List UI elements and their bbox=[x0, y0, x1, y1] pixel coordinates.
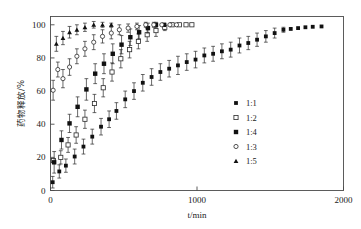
data-point-1-3 bbox=[144, 23, 148, 27]
data-point-1-4 bbox=[84, 87, 88, 91]
data-point-1-5 bbox=[61, 36, 66, 40]
data-point-1-3 bbox=[51, 88, 55, 92]
data-point-1-1 bbox=[176, 63, 180, 67]
x-tick-label: 1000 bbox=[188, 195, 207, 205]
data-point-1-3 bbox=[117, 28, 121, 32]
data-point-1-3 bbox=[160, 23, 164, 27]
chart-canvas: 020406080100010002000t/min药物释放/%1:11:21:… bbox=[0, 0, 361, 229]
data-point-1-5 bbox=[67, 30, 72, 34]
data-point-1-1 bbox=[51, 180, 55, 184]
y-tick-label: 80 bbox=[37, 53, 47, 63]
data-point-1-1 bbox=[311, 25, 315, 29]
data-point-1-3 bbox=[61, 77, 65, 81]
data-point-1-1 bbox=[246, 41, 250, 45]
x-tick-label: 2000 bbox=[335, 195, 354, 205]
data-point-1-3 bbox=[67, 65, 71, 69]
legend-label-1-5: 1:5 bbox=[246, 156, 257, 166]
data-point-1-1 bbox=[255, 38, 259, 42]
data-point-1-3 bbox=[56, 67, 60, 71]
legend-marker-1-2 bbox=[234, 115, 238, 119]
legend-marker-1-4 bbox=[234, 130, 238, 134]
data-point-1-2 bbox=[136, 39, 140, 43]
y-tick-label: 20 bbox=[37, 152, 47, 162]
data-point-1-4 bbox=[102, 62, 106, 66]
data-point-1-1 bbox=[64, 164, 68, 168]
x-tick-label: 0 bbox=[48, 195, 53, 205]
data-point-1-2 bbox=[110, 70, 114, 74]
data-point-1-1 bbox=[123, 97, 127, 101]
data-point-1-1 bbox=[194, 58, 198, 62]
data-point-1-1 bbox=[185, 60, 189, 64]
legend-marker-1-1 bbox=[234, 101, 238, 105]
data-point-1-1 bbox=[132, 89, 136, 93]
data-point-1-2 bbox=[184, 23, 188, 27]
data-point-1-1 bbox=[90, 135, 94, 139]
data-point-1-2 bbox=[66, 143, 70, 147]
data-point-1-3 bbox=[75, 54, 79, 58]
data-point-1-2 bbox=[119, 57, 123, 61]
data-point-1-1 bbox=[320, 25, 324, 29]
data-point-1-1 bbox=[238, 44, 242, 48]
data-point-1-4 bbox=[52, 160, 56, 164]
data-point-1-1 bbox=[73, 155, 77, 159]
data-point-1-1 bbox=[289, 27, 293, 31]
data-point-1-2 bbox=[83, 117, 87, 121]
data-point-1-5 bbox=[91, 22, 96, 26]
drug-release-chart: 020406080100010002000t/min药物释放/%1:11:21:… bbox=[0, 0, 361, 229]
data-point-1-4 bbox=[67, 121, 71, 125]
data-point-1-4 bbox=[119, 42, 123, 46]
legend-marker-1-3 bbox=[234, 144, 238, 148]
data-point-1-3 bbox=[152, 23, 156, 27]
data-point-1-1 bbox=[273, 31, 277, 35]
data-point-1-3 bbox=[168, 23, 172, 27]
data-point-1-2 bbox=[59, 155, 63, 159]
data-point-1-4 bbox=[59, 138, 63, 142]
data-point-1-1 bbox=[220, 49, 224, 53]
data-point-1-1 bbox=[150, 75, 154, 79]
data-point-1-1 bbox=[264, 34, 268, 38]
data-point-1-4 bbox=[111, 52, 115, 56]
data-point-1-4 bbox=[75, 105, 79, 109]
data-point-1-2 bbox=[154, 28, 158, 32]
data-point-1-3 bbox=[92, 40, 96, 44]
data-point-1-1 bbox=[167, 67, 171, 71]
data-point-1-1 bbox=[211, 52, 215, 56]
data-point-1-1 bbox=[296, 26, 300, 30]
data-point-1-1 bbox=[82, 145, 86, 149]
data-point-1-1 bbox=[57, 170, 61, 174]
data-point-1-2 bbox=[128, 48, 132, 52]
legend-label-1-1: 1:1 bbox=[246, 98, 257, 108]
data-point-1-2 bbox=[101, 86, 105, 90]
y-axis-title: 药物释放/% bbox=[16, 80, 26, 127]
data-point-1-4 bbox=[93, 71, 97, 75]
legend-label-1-4: 1:4 bbox=[246, 127, 258, 137]
data-point-1-5 bbox=[54, 41, 59, 45]
data-point-1-4 bbox=[137, 30, 141, 34]
y-tick-label: 40 bbox=[37, 119, 47, 129]
data-point-1-1 bbox=[304, 25, 308, 29]
data-point-1-1 bbox=[115, 109, 119, 113]
y-tick-label: 60 bbox=[37, 86, 47, 96]
data-point-1-5 bbox=[74, 27, 79, 31]
data-point-1-2 bbox=[74, 133, 78, 137]
legend-marker-1-5 bbox=[234, 159, 239, 163]
data-point-1-3 bbox=[83, 47, 87, 51]
data-point-1-2 bbox=[92, 101, 96, 105]
data-point-1-1 bbox=[141, 81, 145, 85]
y-tick-label: 0 bbox=[41, 186, 46, 196]
x-axis-title: t/min bbox=[187, 210, 207, 220]
data-point-1-3 bbox=[126, 26, 130, 30]
legend-label-1-3: 1:3 bbox=[246, 142, 257, 152]
data-point-1-1 bbox=[282, 28, 286, 32]
data-point-1-5 bbox=[83, 25, 88, 29]
data-point-1-1 bbox=[202, 54, 206, 58]
data-point-1-4 bbox=[128, 35, 132, 39]
data-point-1-2 bbox=[190, 23, 194, 27]
data-point-1-1 bbox=[99, 125, 103, 129]
data-point-1-1 bbox=[107, 117, 111, 121]
data-point-1-3 bbox=[100, 34, 104, 38]
data-point-1-1 bbox=[229, 48, 233, 52]
data-point-1-5 bbox=[100, 22, 105, 26]
y-tick-label: 100 bbox=[32, 20, 46, 30]
data-point-1-3 bbox=[135, 24, 139, 28]
